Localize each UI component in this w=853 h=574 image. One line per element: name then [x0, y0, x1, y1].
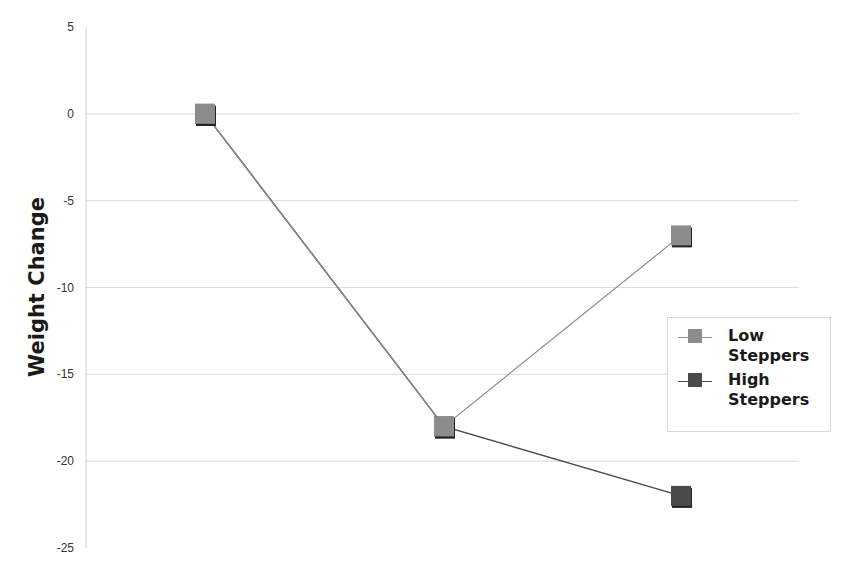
y-tick-label: -15: [57, 367, 75, 381]
data-point-marker: [671, 225, 691, 245]
series-lines: [205, 114, 681, 496]
data-point-marker: [434, 416, 454, 436]
y-tick-label: -10: [57, 281, 75, 295]
legend-label: Low Steppers: [728, 326, 828, 366]
series-line: [205, 114, 681, 496]
data-point-marker: [671, 486, 691, 506]
y-tick-labels: 50-5-10-15-20-25: [57, 20, 75, 555]
y-tick-label: -5: [63, 194, 74, 208]
line-chart: 50-5-10-15-20-25 Weight Change: [0, 0, 853, 574]
series-markers: [195, 104, 692, 508]
y-tick-label: -25: [57, 541, 75, 555]
data-point-marker: [195, 104, 215, 124]
y-tick-label: -20: [57, 454, 75, 468]
y-axis-title: Weight Change: [25, 197, 49, 377]
legend: Low Steppers High Steppers: [667, 317, 831, 432]
y-tick-label: 5: [67, 20, 74, 34]
legend-item-high-steppers: High Steppers: [678, 370, 830, 410]
legend-item-low-steppers: Low Steppers: [678, 326, 830, 366]
y-tick-label: 0: [67, 107, 74, 121]
series-line: [205, 114, 681, 427]
square-marker-icon: [678, 370, 712, 392]
square-marker-icon: [678, 326, 712, 348]
legend-label: High Steppers: [728, 370, 828, 410]
